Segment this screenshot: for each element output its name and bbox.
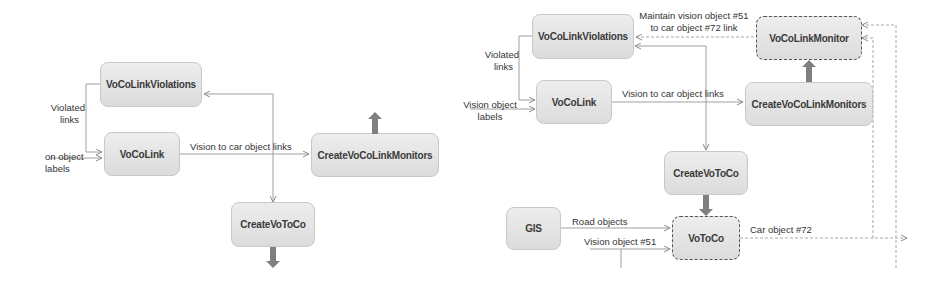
box-label: VoCoLink [552, 97, 596, 108]
right-vocolinkviolations-box[interactable]: VoCoLinkViolations [532, 14, 634, 59]
right-createvotoco-box[interactable]: CreateVoToCo [664, 151, 748, 195]
box-label: VoCoLink [120, 149, 164, 160]
right-road-objects-label: Road objects [572, 216, 627, 228]
right-violated-links-label: Violated links [478, 49, 519, 73]
right-votoco-box[interactable]: VoToCo [672, 216, 740, 260]
left-vocolinkviolations-box[interactable]: VoCoLinkViolations [100, 62, 202, 107]
right-car-object-72-label: Car object #72 [750, 224, 812, 236]
label-line: labels [462, 111, 518, 123]
box-label: CreateVoToCo [240, 219, 306, 230]
right-createvocolinkmonitors-box[interactable]: CreateVoCoLinkMonitors [745, 82, 873, 126]
diagram-canvas: VoCoLinkViolations VoCoLink CreateVoCoLi… [0, 0, 947, 284]
left-violated-links-label: Violated links [44, 102, 85, 126]
box-label: VoCoLinkMonitor [769, 33, 849, 44]
box-label: VoCoLinkViolations [106, 79, 196, 90]
box-label: CreateVoToCo [673, 168, 739, 179]
label-line: Maintain vision object #51 [636, 10, 752, 22]
label-line: Violated [44, 102, 85, 114]
right-vision-object-51-label: Vision object #51 [584, 236, 656, 248]
right-vocolink-box[interactable]: VoCoLink [536, 80, 612, 124]
right-vision-to-car-label: Vision to car object links [622, 88, 724, 100]
fat-down-arrow-icon [266, 247, 280, 268]
left-vision-to-car-label: Vision to car object links [190, 141, 292, 153]
fat-up-arrow-icon [368, 112, 382, 134]
right-vision-object-labels-label: Vision object labels [462, 99, 518, 123]
fat-down-arrow-icon [699, 195, 713, 216]
fat-up-arrow-icon [802, 60, 816, 82]
right-maintain-link-label: Maintain vision object #51 to car object… [636, 10, 752, 34]
right-vocolinkmonitor-box[interactable]: VoCoLinkMonitor [756, 16, 862, 60]
box-label: CreateVoCoLinkMonitors [752, 99, 867, 110]
left-vision-object-labels-label: on object labels [45, 151, 84, 175]
label-line: links [44, 114, 85, 126]
box-label: VoCoLinkViolations [538, 31, 628, 42]
left-createvotoco-box[interactable]: CreateVoToCo [231, 202, 315, 247]
box-label: GIS [525, 223, 542, 234]
box-label: CreateVoCoLinkMonitors [318, 150, 433, 161]
label-line: to car object #72 link [636, 22, 752, 34]
label-line: links [478, 61, 519, 73]
label-line: labels [45, 163, 84, 175]
label-line: Vision object [462, 99, 518, 111]
right-gis-box[interactable]: GIS [506, 207, 561, 250]
box-label: VoToCo [688, 233, 724, 244]
label-line: Violated [478, 49, 519, 61]
label-line: on object [45, 151, 84, 163]
left-createvocolinkmonitors-box[interactable]: CreateVoCoLinkMonitors [311, 133, 439, 177]
left-vocolink-box[interactable]: VoCoLink [104, 132, 180, 176]
